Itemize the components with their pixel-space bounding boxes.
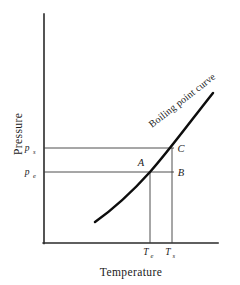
- x-tick-label-te: T e: [143, 247, 153, 259]
- axes-group: [43, 14, 218, 244]
- figure-container: Pressure Temperature p s p e T e T s: [0, 0, 240, 285]
- x-tick-te-base: T: [143, 247, 149, 257]
- point-label-a: A: [137, 157, 145, 168]
- x-axis-title: Temperature: [100, 266, 162, 279]
- x-tick-ts-subscript: s: [173, 252, 176, 259]
- y-tick-label-ps: p s: [24, 143, 36, 155]
- x-tick-label-ts: T s: [165, 247, 175, 259]
- y-tick-pe-base: p: [24, 167, 30, 177]
- boiling-point-curve-group: [95, 93, 213, 222]
- point-label-b: B: [178, 167, 185, 178]
- boiling-point-curve: [95, 93, 213, 222]
- y-tick-labels-group: p s p e: [24, 143, 36, 179]
- point-label-c: C: [177, 143, 185, 154]
- pressure-temperature-chart: Pressure Temperature p s p e T e T s: [0, 0, 240, 285]
- reference-lines-group: [44, 148, 174, 243]
- y-axis-title: Pressure: [12, 113, 24, 155]
- x-tick-ts-base: T: [165, 247, 171, 257]
- y-tick-ps-base: p: [24, 143, 30, 153]
- x-tick-te-subscript: e: [151, 252, 154, 259]
- y-tick-pe-subscript: e: [33, 172, 36, 179]
- y-tick-ps-subscript: s: [33, 148, 36, 155]
- y-tick-label-pe: p e: [24, 167, 36, 179]
- x-tick-labels-group: T e T s: [143, 247, 175, 259]
